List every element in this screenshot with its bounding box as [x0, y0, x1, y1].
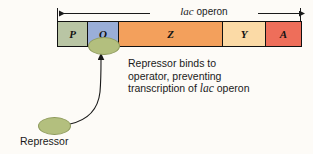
annotation-line-3-prefix: transcription of [128, 82, 200, 94]
repressor-binding-arrow [70, 60, 101, 124]
gene-label-promoter: P [69, 28, 76, 40]
operon-span-label-italic: lac [180, 5, 193, 17]
gene-box-promoter: P [58, 22, 88, 46]
gene-box-lacY: Y [223, 22, 266, 46]
gene-box-lacZ: Z [119, 22, 223, 46]
gene-label-lacY: Y [241, 28, 248, 40]
gene-box-lacA: A [266, 22, 301, 46]
gene-label-lacA: A [280, 28, 287, 40]
annotation-text: Repressor binds to operator, preventing … [128, 57, 308, 95]
operon-span-label-suffix: operon [194, 6, 228, 17]
annotation-line-1: Repressor binds to [128, 57, 308, 70]
operon-span-label: lac operon [150, 5, 258, 18]
annotation-line-3-suffix: operon [214, 82, 250, 94]
repressor-free-molecule [38, 117, 71, 135]
figure-canvas: lac operon POZYA Repressor Repressor bin… [0, 0, 313, 154]
repressor-caption: Repressor [20, 135, 68, 147]
annotation-line-2: operator, preventing [128, 70, 308, 83]
repressor-bound-to-operator [88, 37, 120, 55]
gene-label-lacZ: Z [167, 28, 174, 40]
annotation-line-3: transcription of lac operon [128, 82, 308, 95]
annotation-line-3-italic: lac [200, 82, 214, 94]
